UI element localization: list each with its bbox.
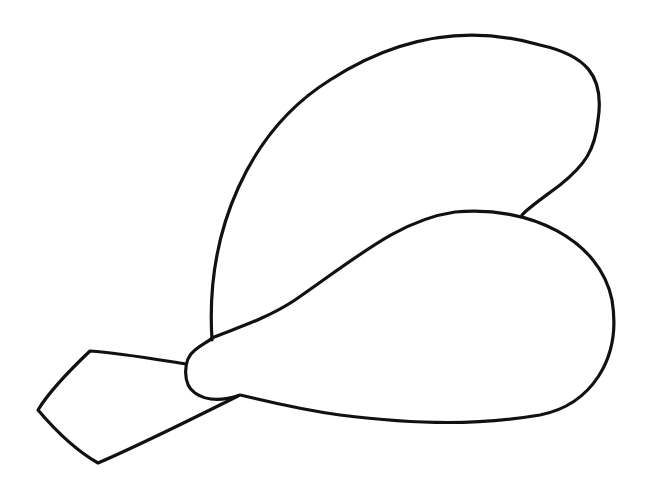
line-drawing xyxy=(0,0,658,489)
upper-leaf-outline xyxy=(211,35,599,340)
stem-tab-outline xyxy=(38,351,238,463)
main-body-outline xyxy=(186,211,614,422)
